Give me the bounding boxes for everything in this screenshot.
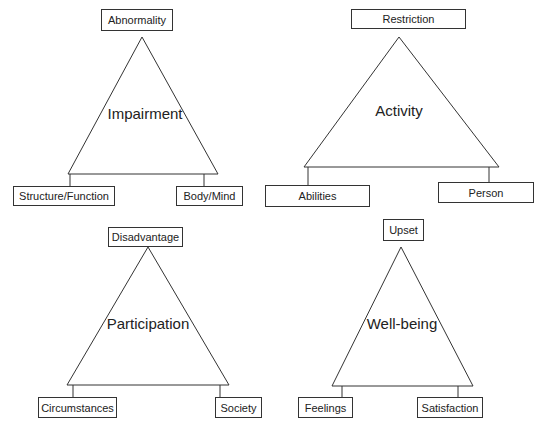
node-abnormality: Abnormality [101, 9, 173, 31]
node-society: Society [215, 397, 262, 418]
label-well-being: Well-being [367, 315, 438, 332]
node-structure-function: Structure/Function [13, 186, 115, 206]
node-satisfaction: Satisfaction [417, 397, 483, 418]
label-impairment: Impairment [107, 105, 182, 122]
node-body-mind: Body/Mind [176, 186, 243, 206]
label-participation: Participation [107, 315, 190, 332]
node-disadvantage: Disadvantage [108, 227, 183, 247]
node-upset: Upset [383, 219, 424, 241]
node-feelings: Feelings [298, 397, 353, 418]
node-person: Person [438, 182, 534, 203]
node-circumstances: Circumstances [38, 397, 117, 418]
label-activity: Activity [375, 102, 423, 119]
node-abilities: Abilities [265, 185, 370, 207]
diagram-lines [0, 0, 544, 431]
node-restriction: Restriction [351, 9, 466, 29]
